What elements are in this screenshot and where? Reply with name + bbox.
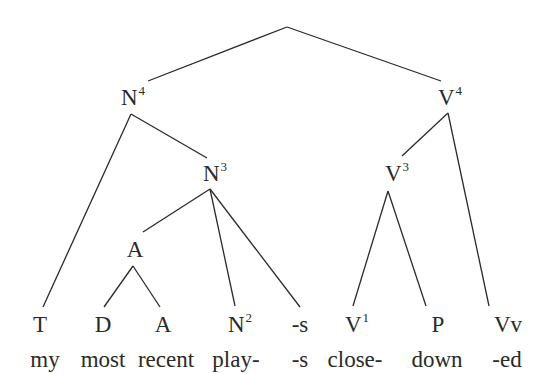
edge-a-d: [104, 266, 133, 307]
word-close: close-: [328, 348, 383, 371]
edge-v4-v3: [402, 113, 448, 156]
tree-edges: [0, 0, 539, 374]
edge-root-n4: [148, 27, 287, 81]
edge-n4-t: [43, 114, 131, 307]
edge-v3-v1: [353, 191, 388, 306]
node-v3: V3: [385, 162, 409, 185]
leaf-d: D: [95, 313, 112, 336]
leaf-n2: N2: [228, 313, 252, 336]
edge-v4-vv: [448, 113, 489, 306]
node-n4: N4: [121, 86, 145, 109]
node-n3: N3: [203, 162, 227, 185]
node-v4: V4: [438, 86, 462, 109]
leaf-a: A: [155, 313, 172, 336]
word-recent: recent: [138, 348, 194, 371]
edge-n3-s: [210, 189, 300, 307]
edge-n4-n3: [131, 114, 207, 158]
leaf-v1: V1: [345, 313, 369, 336]
edge-a-a: [133, 266, 160, 307]
word-play: play-: [212, 348, 259, 371]
leaf-p: P: [432, 313, 445, 336]
leaf-vv: Vv: [494, 313, 522, 336]
edge-v3-p: [388, 191, 426, 306]
word-down: down: [411, 348, 462, 371]
leaf-t: T: [33, 313, 47, 336]
node-a: A: [127, 238, 144, 261]
word-most: most: [81, 348, 126, 371]
word-my: my: [30, 348, 59, 371]
word-ed: -ed: [492, 348, 521, 371]
word-s: -s: [292, 348, 309, 371]
edge-n3-n2: [210, 189, 235, 306]
leaf-s: -s: [292, 313, 309, 336]
edge-n3-a: [143, 189, 210, 232]
edge-root-v4: [287, 27, 441, 81]
